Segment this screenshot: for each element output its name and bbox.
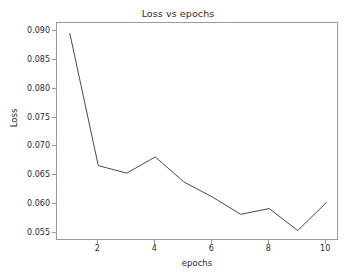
x-axis-label: epochs xyxy=(56,258,338,268)
loss-polyline xyxy=(70,33,326,230)
x-axis-tick-label: 4 xyxy=(152,244,157,253)
x-axis-tick-label: 6 xyxy=(209,244,214,253)
chart-title: Loss vs epochs xyxy=(0,8,356,19)
chart-figure: Loss vs epochs Loss 0.0550.0600.0650.070… xyxy=(0,0,356,279)
x-axis-tick-label: 2 xyxy=(95,244,100,253)
x-axis-tick-label: 8 xyxy=(266,244,271,253)
loss-line-series xyxy=(57,23,339,241)
x-axis-tick-labels: 246810 xyxy=(56,244,338,258)
plot-area xyxy=(56,22,338,240)
y-axis-tick-marks xyxy=(0,22,56,240)
x-axis-tick-label: 10 xyxy=(320,244,330,253)
